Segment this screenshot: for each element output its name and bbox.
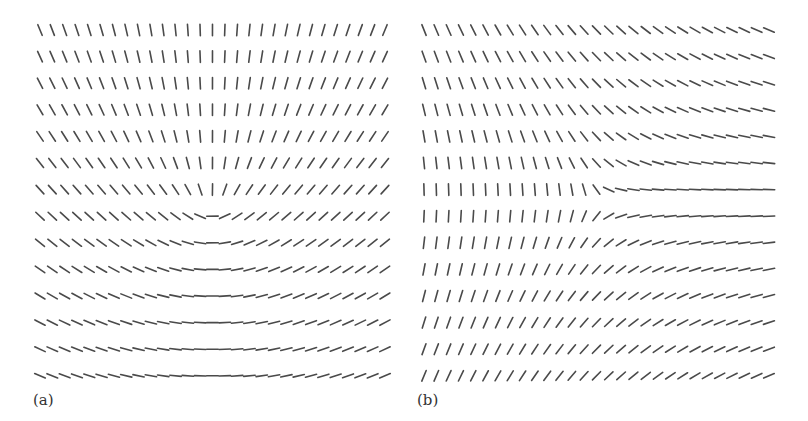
director-segment — [653, 27, 662, 34]
director-segment — [628, 215, 639, 218]
director-segment — [484, 264, 487, 275]
director-segment — [472, 264, 475, 275]
director-segment — [763, 242, 774, 243]
director-segment — [460, 157, 462, 168]
director-segment — [739, 81, 750, 85]
director-segment — [640, 215, 651, 217]
director-segment — [484, 104, 488, 115]
director-segment — [617, 266, 626, 273]
director-segment — [545, 264, 550, 274]
director-segment — [495, 371, 501, 381]
director-segment — [714, 81, 725, 85]
director-segment — [581, 132, 588, 141]
director-segment — [751, 242, 762, 244]
director-segment — [508, 291, 513, 302]
director-segment — [557, 158, 561, 169]
director-segment — [616, 214, 627, 218]
director-field-figure: (a) (b) — [0, 0, 808, 421]
director-segment — [568, 26, 575, 35]
director-segment — [640, 241, 651, 245]
director-segment — [592, 52, 600, 60]
director-segment — [447, 104, 450, 115]
director-segment — [484, 291, 488, 302]
director-segment — [653, 346, 663, 353]
director-segment — [653, 267, 663, 272]
director-field-panel-b — [0, 0, 808, 390]
director-segment — [422, 370, 426, 381]
director-segment — [739, 242, 750, 244]
director-segment — [447, 317, 451, 328]
director-segment — [448, 210, 449, 221]
director-segment — [580, 105, 587, 114]
director-segment — [423, 237, 424, 248]
director-segment — [677, 241, 688, 244]
director-segment — [641, 134, 651, 139]
director-segment — [702, 242, 713, 244]
director-segment — [556, 79, 563, 88]
director-segment — [471, 25, 476, 35]
director-segment — [678, 346, 688, 352]
director-segment — [653, 293, 663, 299]
director-segment — [751, 321, 762, 325]
director-segment — [739, 28, 749, 33]
director-segment — [739, 54, 750, 58]
director-segment — [702, 81, 713, 86]
director-segment — [520, 52, 526, 62]
director-segment — [666, 346, 676, 352]
director-segment — [641, 27, 650, 34]
director-segment — [763, 295, 774, 298]
director-segment — [580, 318, 588, 327]
director-segment — [556, 291, 562, 301]
director-segment — [641, 267, 651, 272]
director-segment — [666, 27, 676, 33]
director-segment — [677, 294, 687, 299]
director-segment — [605, 345, 613, 353]
director-segment — [582, 211, 586, 222]
director-segment — [617, 345, 626, 353]
director-segment — [751, 81, 762, 85]
director-segment — [522, 184, 523, 195]
director-segment — [448, 131, 450, 142]
director-segment — [764, 28, 775, 32]
director-segment — [652, 189, 663, 190]
director-segment — [605, 53, 613, 61]
director-segment — [435, 104, 438, 115]
director-segment — [739, 108, 750, 111]
director-segment — [568, 345, 575, 354]
director-segment — [521, 264, 525, 275]
director-segment — [472, 157, 474, 168]
director-segment — [629, 346, 638, 353]
director-segment — [520, 291, 525, 301]
director-segment — [605, 79, 613, 87]
director-segment — [690, 27, 700, 33]
director-segment — [702, 347, 712, 352]
director-segment — [446, 371, 451, 381]
director-segment — [495, 25, 501, 35]
director-segment — [604, 187, 614, 192]
director-segment — [583, 184, 586, 195]
director-segment — [496, 131, 499, 142]
director-segment — [629, 293, 638, 300]
director-segment — [677, 189, 688, 190]
director-segment — [473, 210, 474, 221]
director-segment — [641, 293, 651, 299]
director-segment — [544, 105, 550, 115]
director-segment — [641, 346, 650, 353]
director-segment — [568, 371, 575, 380]
director-segment — [558, 211, 560, 222]
director-segment — [460, 237, 462, 248]
director-segment — [617, 292, 626, 299]
director-segment — [739, 294, 750, 297]
director-segment — [592, 26, 600, 34]
director-segment — [580, 292, 587, 301]
director-segment — [568, 52, 575, 61]
director-segment — [677, 267, 688, 271]
director-segment — [435, 290, 438, 301]
director-segment — [532, 105, 537, 115]
director-segment — [727, 347, 737, 352]
director-segment — [435, 264, 437, 275]
director-segment — [496, 104, 500, 115]
director-segment — [459, 104, 462, 115]
director-segment — [495, 344, 500, 354]
director-segment — [519, 371, 525, 381]
